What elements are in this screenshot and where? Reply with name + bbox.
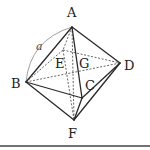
vertex-label-C: C [85,78,95,93]
hidden-edge-AE [63,27,72,50]
edge-length-label: a [36,40,43,53]
edge-BF [26,82,74,120]
octahedron-diagram: A B C D E G F a [0,0,150,150]
edge-CF [74,98,82,120]
center-label-G: G [79,56,89,71]
vertex-label-B: B [11,76,21,91]
vertex-label-D: D [124,58,134,73]
vertex-label-E: E [55,56,65,71]
vertex-label-A: A [66,5,77,20]
vertex-label-F: F [68,126,77,141]
